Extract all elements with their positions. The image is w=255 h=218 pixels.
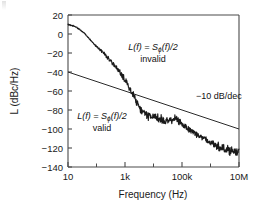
- y-tick-label: 0: [58, 29, 63, 40]
- y-tick-label: −140: [42, 162, 63, 173]
- y-axis-tick-labels: 20 0 −20 −40 −60 −80 −100 −120 −140: [42, 10, 63, 173]
- y-tick-label: −40: [47, 67, 63, 78]
- x-tick-label: 1k: [120, 171, 130, 182]
- y-tick-label: −80: [47, 105, 63, 116]
- x-axis-tick-labels: 10 1k 100k 10M: [63, 171, 249, 182]
- x-axis-ticks: [68, 162, 239, 167]
- invalid-status-label: invalid: [140, 54, 166, 64]
- valid-region-annotation: L(f) = Sϕ(f)/2 valid: [77, 111, 126, 133]
- valid-formula-suffix: (f)/2: [111, 111, 127, 121]
- svg-text:L(f) = Sϕ(f)/2: L(f) = Sϕ(f)/2: [128, 42, 177, 54]
- y-tick-label: 20: [52, 10, 63, 21]
- invalid-formula-prefix: L(f) = S: [128, 42, 158, 52]
- x-tick-label: 10: [63, 171, 74, 182]
- y-axis-title: L (dBc/Hz): [9, 68, 20, 115]
- y-axis-ticks: [68, 15, 72, 167]
- invalid-formula-suffix: (f)/2: [162, 42, 178, 52]
- phase-noise-figure: 20 0 −20 −40 −60 −80 −100 −120 −140 10 1…: [0, 0, 255, 218]
- x-tick-label: 100k: [172, 171, 193, 182]
- invalid-region-annotation: L(f) = Sϕ(f)/2 invalid: [128, 42, 177, 64]
- y-tick-label: −100: [42, 124, 63, 135]
- x-axis-title: Frequency (Hz): [119, 189, 188, 200]
- valid-formula-prefix: L(f) = S: [77, 111, 107, 121]
- x-tick-label: 10M: [230, 171, 249, 182]
- y-tick-label: −120: [42, 143, 63, 154]
- valid-status-label: valid: [93, 123, 112, 133]
- slope-label: −10 dB/dec: [196, 91, 242, 101]
- y-tick-label: −20: [47, 48, 63, 59]
- svg-text:L(f) = Sϕ(f)/2: L(f) = Sϕ(f)/2: [77, 111, 126, 123]
- phase-noise-chart: 20 0 −20 −40 −60 −80 −100 −120 −140 10 1…: [0, 0, 255, 218]
- y-tick-label: −60: [47, 86, 63, 97]
